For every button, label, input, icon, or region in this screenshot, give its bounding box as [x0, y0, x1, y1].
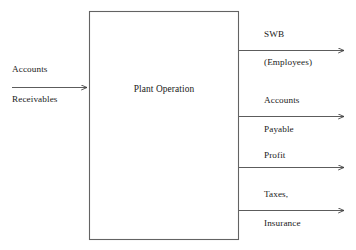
- diagram-lines-layer: [0, 0, 356, 250]
- input-label-receivables: Receivables: [12, 94, 58, 104]
- input-label-accounts: Accounts: [12, 64, 48, 74]
- output-label-taxes: Taxes,: [264, 189, 288, 199]
- output-label-payable: Payable: [264, 124, 294, 134]
- output-label-accounts: Accounts: [264, 95, 300, 105]
- plant-operation-flow-diagram: Plant Operation Accounts Receivables SWB…: [0, 0, 356, 250]
- output-label-insurance: Insurance: [264, 218, 301, 228]
- output-label-employees: (Employees): [264, 57, 312, 67]
- process-box-label: Plant Operation: [89, 84, 239, 94]
- output-label-swb: SWB: [264, 29, 284, 39]
- output-label-profit: Profit: [264, 150, 286, 160]
- process-box: [90, 12, 239, 240]
